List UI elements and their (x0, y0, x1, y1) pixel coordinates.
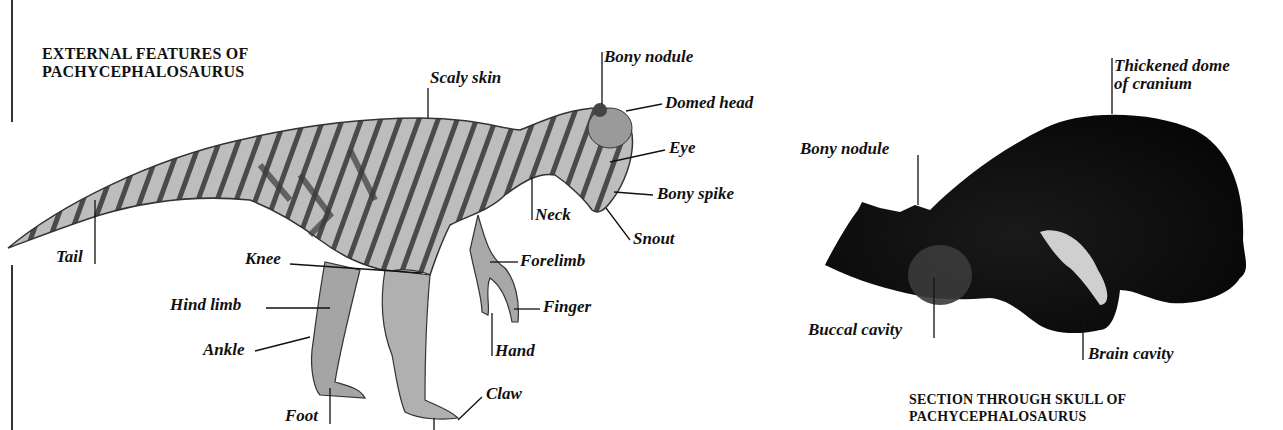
label-skull-bony-nodule: Bony nodule (800, 139, 889, 158)
label-bony-spike: Bony spike (657, 184, 734, 203)
label-domed-head: Domed head (665, 93, 753, 112)
label-hand: Hand (495, 341, 535, 360)
label-finger: Finger (543, 297, 591, 316)
external-features-title: EXTERNAL FEATURES OF PACHYCEPHALOSAURUS (42, 45, 248, 81)
label-scaly-skin: Scaly skin (430, 68, 501, 87)
label-hind-limb: Hind limb (170, 295, 241, 314)
label-eye: Eye (669, 138, 695, 157)
label-neck: Neck (535, 205, 571, 224)
label-foot: Foot (285, 406, 318, 425)
diagram-page: EXTERNAL FEATURES OF PACHYCEPHALOSAURUS … (0, 0, 1283, 430)
label-claw: Claw (486, 384, 522, 403)
label-tail: Tail (56, 247, 83, 266)
label-forelimb: Forelimb (520, 251, 585, 270)
label-brain-cavity: Brain cavity (1088, 344, 1173, 363)
label-knee: Knee (245, 249, 281, 268)
label-thickened-dome: Thickened dome of cranium (1114, 57, 1230, 93)
label-buccal-cavity: Buccal cavity (808, 320, 902, 339)
label-snout: Snout (633, 229, 675, 248)
skull-section-title: SECTION THROUGH SKULL OF PACHYCEPHALOSAU… (909, 391, 1126, 425)
label-bony-nodule: Bony nodule (604, 47, 693, 66)
label-ankle: Ankle (203, 340, 245, 359)
